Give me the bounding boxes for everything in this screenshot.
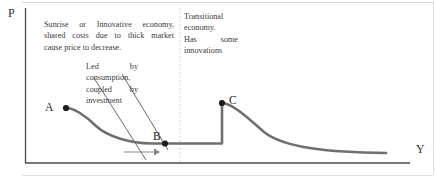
data-point-a-label: A bbox=[45, 101, 53, 113]
x-axis-label: Y bbox=[416, 142, 425, 157]
annotation-transitional-line-4: innovations bbox=[184, 45, 238, 56]
annotation-led-by-consumption: Led by consumption, coupled by investmen… bbox=[86, 61, 138, 107]
annotation-led-line-3: coupled by bbox=[86, 84, 138, 95]
data-point-b-label: B bbox=[153, 130, 161, 142]
data-point-a-marker bbox=[63, 105, 69, 111]
data-point-c-marker bbox=[219, 100, 225, 106]
price-path-curve bbox=[66, 103, 386, 153]
annotation-sunrise-line-1: Sunrise or Innovative economy, bbox=[44, 19, 174, 30]
annotation-transitional-line-2: economy. bbox=[184, 22, 238, 33]
annotation-transitional-line-1: Transitional bbox=[184, 11, 238, 22]
annotation-sunrise-economy: Sunrise or Innovative economy, shared co… bbox=[44, 19, 174, 53]
annotation-sunrise-line-2: shared costs due to thick market bbox=[44, 30, 174, 41]
b-pointer-arrow-head bbox=[154, 149, 160, 156]
economy-price-path-figure: P Y A B C Sunrise or Innovative economy,… bbox=[0, 0, 435, 180]
annotation-sunrise-line-3: cause price to decrease. bbox=[44, 42, 174, 53]
annotation-transitional-line-3: Has some bbox=[184, 34, 238, 45]
annotation-led-line-1: Led by bbox=[86, 61, 138, 72]
annotation-led-line-2: consumption, bbox=[86, 72, 138, 83]
annotation-transitional-economy: Transitional economy. Has some innovatio… bbox=[184, 11, 238, 57]
y-axis-label: P bbox=[8, 6, 15, 21]
data-point-c-label: C bbox=[229, 94, 237, 106]
annotation-led-line-4: investment bbox=[86, 95, 138, 106]
data-point-b-marker bbox=[162, 140, 168, 146]
